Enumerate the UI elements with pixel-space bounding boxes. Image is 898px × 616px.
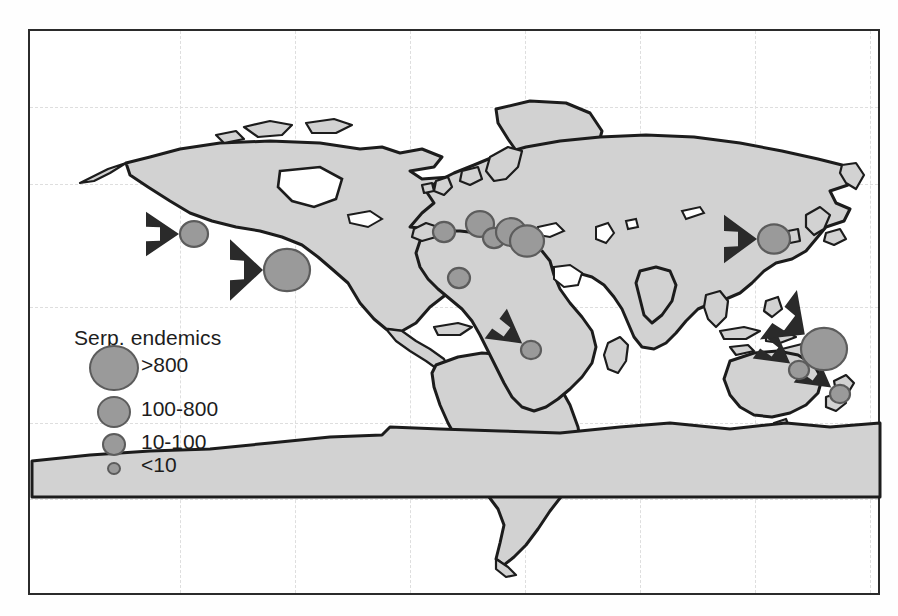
map-legend: Serp. endemics >800100-80010-100<10 xyxy=(74,326,289,350)
map-marker-southern-africa[interactable] xyxy=(521,341,541,359)
map-marker-east-asia-japan[interactable] xyxy=(758,224,790,253)
pointer-arrow xyxy=(146,212,179,257)
figure-world-map: .land{fill:#d2d2d2;stroke:#1c1c1c;stroke… xyxy=(0,0,898,616)
legend-bubble-smallest xyxy=(107,462,121,475)
legend-bubble-medium xyxy=(102,433,126,456)
legend-label-largest: >800 xyxy=(141,353,188,377)
map-marker-mexico-caribbean[interactable] xyxy=(264,249,310,291)
map-marker-west-africa[interactable] xyxy=(448,268,470,288)
legend-label-large: 100-800 xyxy=(141,397,218,421)
pointer-arrow xyxy=(230,239,263,301)
map-marker-new-caledonia[interactable] xyxy=(801,328,847,370)
legend-bubble-largest xyxy=(89,345,139,392)
map-marker-iberia-morocco[interactable] xyxy=(433,222,455,242)
map-frame: .land{fill:#d2d2d2;stroke:#1c1c1c;stroke… xyxy=(28,29,880,595)
map-marker-new-zealand[interactable] xyxy=(830,385,850,403)
legend-label-medium: 10-100 xyxy=(141,430,206,454)
map-marker-cuba-caucasus-east[interactable] xyxy=(510,225,544,256)
legend-bubble-large xyxy=(97,396,131,428)
world-map-svg: .land{fill:#d2d2d2;stroke:#1c1c1c;stroke… xyxy=(30,31,882,597)
legend-label-smallest: <10 xyxy=(141,453,177,477)
pointer-arrow xyxy=(760,290,805,339)
map-marker-western-north-america[interactable] xyxy=(180,221,208,247)
